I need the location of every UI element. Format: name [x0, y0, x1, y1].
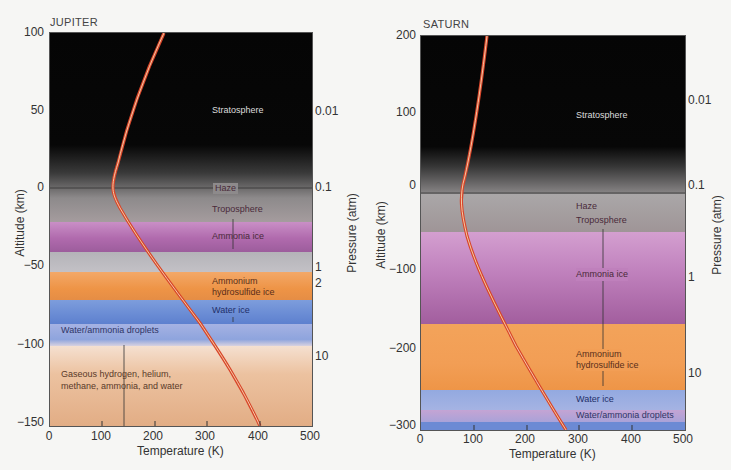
jupiter-y2-tick: 2 — [315, 276, 322, 290]
saturn-y-tick: 100 — [382, 105, 416, 119]
saturn-y-tick: −300 — [382, 418, 416, 432]
saturn-y2-axis-title: Pressure (atm) — [710, 185, 724, 285]
saturn-label-water-ice: Water ice — [576, 394, 614, 405]
saturn-temperature-curve — [421, 36, 685, 430]
jupiter-label-ammonia-ice: Ammonia ice — [212, 231, 264, 242]
saturn-y-tick: −200 — [382, 341, 416, 355]
saturn-title: SATURN — [423, 18, 469, 30]
saturn-y-tick: 200 — [382, 28, 416, 42]
saturn-y2-tick: 0.01 — [688, 93, 711, 107]
jupiter-y2-tick: 1 — [315, 260, 322, 274]
saturn-label-stratosphere: Stratosphere — [576, 110, 628, 121]
saturn-label-troposphere: Troposphere — [576, 215, 627, 226]
saturn-label-ammonium-1: Ammonium — [576, 349, 622, 360]
saturn-x-tick: 0 — [405, 432, 435, 446]
jupiter-title: JUPITER — [50, 16, 98, 28]
saturn-y-axis-title: Altitude (km) — [374, 195, 388, 275]
saturn-x-tick: 100 — [458, 432, 488, 446]
jupiter-label-ammonium-2: hydrosulfide ice — [212, 287, 275, 298]
saturn-y2-tick: 10 — [688, 366, 701, 380]
jupiter-label-gaseous-2: methane, ammonia, and water — [61, 381, 183, 392]
saturn-x-axis-title: Temperature (K) — [509, 447, 596, 461]
saturn-x-tick: 200 — [510, 432, 540, 446]
jupiter-x-tick: 100 — [86, 429, 116, 443]
saturn-y2-tick: 1 — [688, 270, 695, 284]
jupiter-y-tick: −150 — [10, 415, 44, 429]
jupiter-y-tick: −100 — [10, 337, 44, 351]
jupiter-y2-axis-title: Pressure (atm) — [345, 183, 359, 283]
jupiter-label-water-ice: Water ice — [212, 305, 250, 316]
jupiter-x-tick: 300 — [190, 429, 220, 443]
saturn-plot-area: Stratosphere Haze Troposphere Ammonia ic… — [420, 35, 686, 431]
saturn-y2-tick: 0.1 — [688, 178, 705, 192]
jupiter-y2-tick: 0.1 — [315, 180, 332, 194]
jupiter-label-haze: Haze — [213, 183, 238, 194]
saturn-label-haze: Haze — [576, 201, 597, 212]
jupiter-label-stratosphere: Stratosphere — [212, 105, 264, 116]
saturn-x-tick: 500 — [668, 432, 698, 446]
saturn-label-ammonium-2: hydrosulfide ice — [576, 360, 639, 371]
jupiter-x-tick: 400 — [243, 429, 273, 443]
jupiter-y2-tick: 10 — [315, 349, 328, 363]
saturn-x-tick: 400 — [616, 432, 646, 446]
jupiter-y-axis-title: Altitude (km) — [13, 183, 27, 263]
jupiter-x-tick: 200 — [138, 429, 168, 443]
jupiter-label-troposphere: Troposphere — [212, 204, 263, 215]
jupiter-label-gaseous-1: Gaseous hydrogen, helium, — [61, 369, 171, 380]
saturn-y-tick: 0 — [382, 178, 416, 192]
jupiter-label-ammonium-1: Ammonium — [212, 276, 258, 287]
jupiter-x-tick: 0 — [34, 429, 64, 443]
jupiter-panel: JUPITER Stratosphere Haze Troposphere — [0, 0, 365, 470]
jupiter-x-tick: 500 — [295, 429, 325, 443]
saturn-label-ammonia-ice: Ammonia ice — [576, 268, 628, 281]
jupiter-y-tick: 50 — [10, 103, 44, 117]
saturn-label-droplets: Water/ammonia droplets — [576, 410, 674, 421]
jupiter-x-axis-title: Temperature (K) — [137, 444, 224, 458]
saturn-panel: SATURN Stratosphere Haze Troposphere Amm… — [370, 0, 731, 470]
jupiter-y-tick: 100 — [10, 25, 44, 39]
jupiter-label-droplets: Water/ammonia droplets — [61, 325, 159, 336]
jupiter-temperature-curve — [50, 33, 312, 426]
saturn-x-tick: 300 — [563, 432, 593, 446]
jupiter-plot-area: Stratosphere Haze Troposphere Ammonia ic… — [49, 32, 313, 427]
jupiter-y2-tick: 0.01 — [315, 104, 338, 118]
